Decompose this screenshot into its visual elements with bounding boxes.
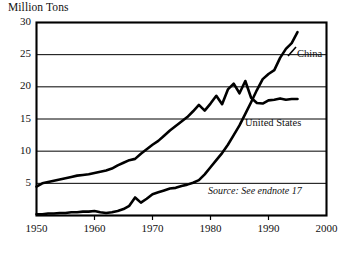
y-tick-label: 5 — [5, 176, 31, 188]
x-tick-label: 1990 — [249, 222, 289, 234]
y-tick-label: 15 — [5, 112, 31, 124]
y-tick-label: 20 — [5, 79, 31, 91]
y-tick-label: 30 — [5, 15, 31, 27]
series-label-china: China — [297, 48, 322, 59]
y-tick-label: 10 — [5, 144, 31, 156]
series-label-united-states: United States — [245, 117, 301, 128]
y-tick-label: 25 — [5, 47, 31, 59]
x-tick-label: 1950 — [17, 222, 57, 234]
chart-container: Million Tons 30252015105 195019601970198… — [0, 0, 356, 261]
x-tick-label: 2000 — [307, 222, 347, 234]
source-note: Source: See endnote 17 — [208, 185, 302, 196]
x-tick-label: 1980 — [191, 222, 231, 234]
x-tick-label: 1970 — [133, 222, 173, 234]
x-tick-label: 1960 — [75, 222, 115, 234]
